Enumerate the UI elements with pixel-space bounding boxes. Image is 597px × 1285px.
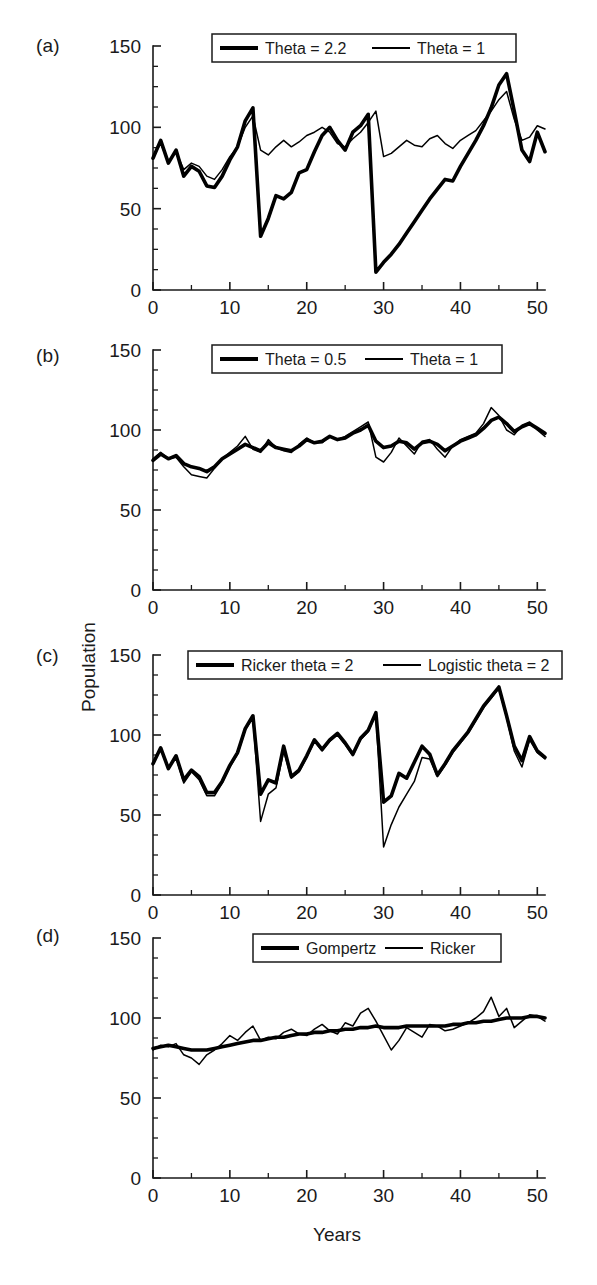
x-tick-label: 10	[219, 902, 240, 923]
x-tick-label: 50	[527, 297, 548, 318]
x-tick-label: 50	[527, 1185, 548, 1206]
y-tick-label: 50	[120, 1088, 141, 1109]
x-tick-label: 0	[148, 297, 159, 318]
x-tick-label: 40	[450, 1185, 471, 1206]
x-tick-label: 20	[296, 297, 317, 318]
legend-label: Logistic theta = 2	[428, 657, 550, 674]
y-tick-label: 150	[109, 340, 141, 361]
axis-lines	[153, 655, 545, 895]
plot-layer: 05010015001020304050Theta = 2.2Theta = 1…	[0, 0, 597, 1285]
x-tick-label: 20	[296, 597, 317, 618]
x-tick-label: 20	[296, 902, 317, 923]
y-tick-label: 0	[130, 1168, 141, 1189]
series-line-thick	[153, 417, 545, 471]
x-tick-label: 50	[527, 597, 548, 618]
legend-panel-2: Theta = 0.5Theta = 1	[212, 345, 502, 373]
x-tick-label: 0	[148, 902, 159, 923]
y-tick-label: 150	[109, 928, 141, 949]
legend-panel-1: Theta = 2.2Theta = 1	[212, 34, 516, 62]
x-tick-label: 40	[450, 902, 471, 923]
series-line-thin	[153, 92, 545, 180]
panel-3: 05010015001020304050Ricker theta = 2Logi…	[109, 645, 562, 923]
legend-panel-3: Ricker theta = 2Logistic theta = 2	[188, 651, 562, 679]
y-tick-label: 0	[130, 280, 141, 301]
y-tick-label: 50	[120, 805, 141, 826]
x-tick-label: 10	[219, 597, 240, 618]
figure-multipanel-population-timeseries: (a) (b) (c) (d) Population Years 0501001…	[0, 0, 597, 1285]
series-line-thick	[153, 74, 545, 272]
legend-label: Theta = 1	[417, 40, 485, 57]
y-tick-label: 100	[109, 420, 141, 441]
legend-label: Ricker theta = 2	[241, 657, 354, 674]
x-tick-label: 30	[373, 1185, 394, 1206]
panel-4: 05010015001020304050GompertzRicker	[109, 928, 548, 1206]
x-tick-label: 10	[219, 297, 240, 318]
y-tick-label: 150	[109, 645, 141, 666]
legend-label: Theta = 1	[410, 351, 478, 368]
y-tick-label: 100	[109, 117, 141, 138]
x-tick-label: 50	[527, 902, 548, 923]
legend-label: Theta = 0.5	[265, 351, 346, 368]
legend-label: Gompertz	[306, 940, 376, 957]
x-tick-label: 20	[296, 1185, 317, 1206]
x-tick-label: 40	[450, 297, 471, 318]
x-tick-label: 30	[373, 902, 394, 923]
legend-panel-4: GompertzRicker	[253, 934, 501, 962]
x-tick-label: 30	[373, 297, 394, 318]
x-tick-label: 0	[148, 597, 159, 618]
x-tick-label: 30	[373, 597, 394, 618]
legend-label: Ricker	[430, 940, 476, 957]
y-tick-label: 0	[130, 885, 141, 906]
y-tick-label: 0	[130, 580, 141, 601]
y-tick-label: 100	[109, 1008, 141, 1029]
panel-2: 05010015001020304050Theta = 0.5Theta = 1	[109, 340, 548, 618]
y-tick-label: 150	[109, 36, 141, 57]
x-tick-label: 40	[450, 597, 471, 618]
series-line-thin	[153, 689, 545, 847]
x-tick-label: 0	[148, 1185, 159, 1206]
y-tick-label: 100	[109, 725, 141, 746]
y-tick-label: 50	[120, 199, 141, 220]
panel-1: 05010015001020304050Theta = 2.2Theta = 1	[109, 34, 548, 318]
axis-lines	[153, 938, 545, 1178]
axis-lines	[153, 46, 545, 290]
x-tick-label: 10	[219, 1185, 240, 1206]
legend-label: Theta = 2.2	[265, 40, 346, 57]
series-line-thick	[153, 1016, 545, 1050]
y-tick-label: 50	[120, 500, 141, 521]
